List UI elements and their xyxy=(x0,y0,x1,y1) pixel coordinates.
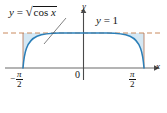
x-axis-label: x xyxy=(156,61,160,71)
curve-equation-label: y = √ cos x xyxy=(9,6,57,18)
fraction-numerator: π xyxy=(129,70,136,79)
radicand-function: cos xyxy=(34,6,49,18)
y-axis-label: y xyxy=(82,1,86,11)
asymptote-label-value: 1 xyxy=(113,14,119,26)
origin-tick-label: 0 xyxy=(75,70,80,80)
x-tick-label-negative-pi-over-2: − π 2 xyxy=(10,70,23,89)
x-tick-label-pi-over-2: π 2 xyxy=(129,70,136,89)
fraction-denominator: 2 xyxy=(16,80,23,89)
fraction: π 2 xyxy=(16,70,23,89)
fraction-numerator: π xyxy=(16,70,23,79)
radicand: cos x xyxy=(33,6,57,18)
asymptote-label-lhs: y xyxy=(96,14,101,26)
fraction-denominator: 2 xyxy=(129,80,136,89)
leader-line-curve-label xyxy=(44,18,66,44)
figure-container: y = √ cos x y = 1 y x 0 − π 2 π 2 xyxy=(0,0,167,113)
fraction: π 2 xyxy=(129,70,136,89)
asymptote-label-equals: = xyxy=(104,14,110,26)
curve-label-equals: = xyxy=(17,6,23,18)
asymptote-equation-label: y = 1 xyxy=(96,15,118,26)
radical-icon: √ xyxy=(26,5,33,18)
curve-label-lhs: y xyxy=(9,6,14,18)
radical-group: √ cos x xyxy=(26,6,57,18)
radicand-variable: x xyxy=(51,6,56,18)
